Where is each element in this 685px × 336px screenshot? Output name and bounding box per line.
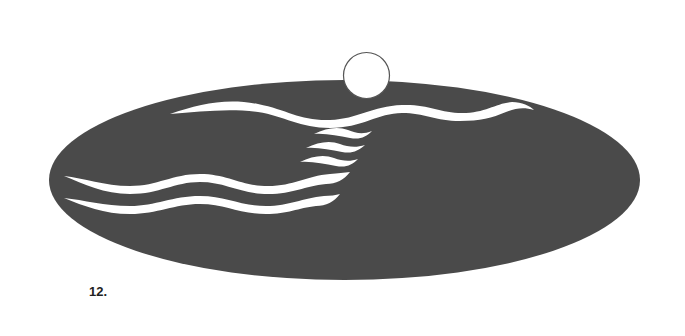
figure-caption: 12. [89,284,107,299]
sun-circle [344,53,390,99]
dark-ellipse [49,80,640,280]
